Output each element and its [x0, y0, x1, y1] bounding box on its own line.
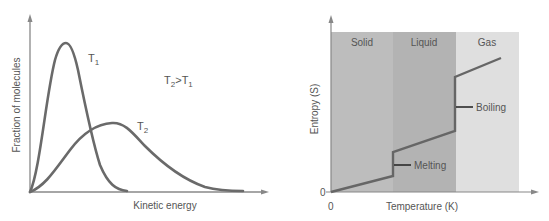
- y-axis-label: Fraction of molecules: [11, 57, 22, 152]
- y-axis-label: Entropy (S): [309, 84, 320, 135]
- t1-label: T1: [88, 52, 100, 67]
- boiling-label: Boiling: [476, 102, 506, 113]
- x-axis-arrow-icon: [531, 190, 539, 195]
- region-label-solid: Solid: [351, 37, 373, 48]
- figure: T1 T2 T2>T1 Kinetic energy Fraction of m…: [0, 0, 549, 221]
- x-axis-label: Kinetic energy: [133, 200, 196, 211]
- y-axis-arrow-icon: [28, 14, 33, 22]
- x-axis-label: Temperature (K): [386, 201, 458, 212]
- x-tick-0: 0: [328, 201, 334, 212]
- melting-label: Melting: [414, 160, 446, 171]
- x-axis-arrow-icon: [261, 190, 269, 195]
- series-t2-curve: [30, 123, 243, 192]
- region-solid: [331, 32, 393, 192]
- t2-label: T2: [137, 120, 149, 135]
- series-t1-curve: [30, 43, 127, 192]
- region-label-liquid: Liquid: [411, 37, 438, 48]
- temperature-comparison-annotation: T2>T1: [164, 74, 193, 89]
- y-axis-arrow-icon: [329, 15, 334, 23]
- kinetic-energy-chart: T1 T2 T2>T1 Kinetic energy Fraction of m…: [11, 14, 269, 211]
- entropy-temperature-chart: Solid Liquid Gas Melting Boiling 0 0 Tem…: [309, 15, 539, 212]
- region-label-gas: Gas: [478, 37, 496, 48]
- y-tick-0: 0: [320, 187, 326, 198]
